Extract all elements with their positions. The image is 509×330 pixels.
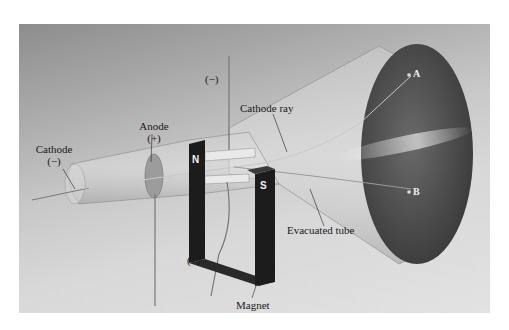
magnet-south-letter: S: [260, 180, 267, 191]
anode-label: Anode (+): [134, 120, 174, 144]
cathode-ray-tube-figure: Cathode (−) Anode (+) (−) (+) Cathode ra…: [19, 24, 490, 313]
cathode-text: Cathode: [31, 143, 77, 155]
cathode-ray-label: Cathode ray: [240, 102, 293, 114]
point-a-label: A: [413, 68, 420, 79]
point-b-label: B: [413, 186, 420, 197]
bottom-electrode-sign: (+): [187, 254, 201, 266]
cathode-label: Cathode (−): [31, 143, 77, 167]
anode-text: Anode: [134, 120, 174, 132]
magnet-north-letter: N: [192, 154, 199, 165]
magnet-label: Magnet: [236, 299, 270, 311]
anode-disk: [145, 154, 163, 198]
cathode-sign: (−): [31, 155, 77, 167]
evacuated-tube-label: Evacuated tube: [287, 224, 355, 236]
top-electrode-sign: (−): [205, 73, 219, 85]
anode-sign: (+): [134, 132, 174, 144]
